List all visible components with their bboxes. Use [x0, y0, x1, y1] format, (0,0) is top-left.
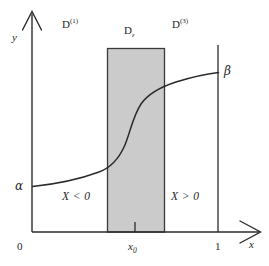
x0-tick-subscript: 0	[133, 246, 137, 255]
figure-canvas: D(1) Dε D(3) y x α β X < 0 X > 0 0 x0 1	[0, 0, 269, 266]
region-d3-superscript: (3)	[180, 17, 188, 25]
y-axis-label: y	[12, 32, 17, 43]
region-d1-name: D	[62, 18, 70, 30]
region-label-depsilon: Dε	[124, 25, 135, 39]
figure-graphics	[0, 0, 269, 266]
origin-tick-label: 0	[17, 241, 23, 252]
region-label-d1: D(1)	[62, 18, 78, 30]
beta-label: β	[224, 65, 231, 77]
shaded-band-rect	[108, 49, 165, 233]
region-label-d3: D(3)	[172, 18, 188, 30]
right-inequality-label: X > 0	[171, 191, 199, 203]
alpha-label: α	[15, 180, 23, 192]
left-inequality-label: X < 0	[62, 191, 90, 203]
one-tick-label: 1	[215, 241, 221, 252]
region-depsilon-name: D	[124, 24, 132, 36]
region-depsilon-subscript: ε	[132, 31, 135, 39]
region-d1-superscript: (1)	[70, 17, 78, 25]
region-d3-name: D	[172, 18, 180, 30]
x-axis-label: x	[249, 239, 254, 250]
x0-tick-label: x0	[128, 241, 137, 255]
